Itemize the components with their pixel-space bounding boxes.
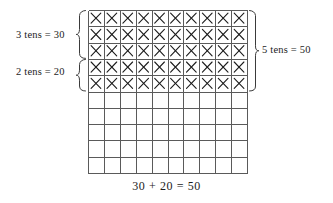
x-mark-icon [202,62,212,72]
x-mark-icon [107,46,117,56]
x-mark-icon [187,13,197,23]
x-mark-icon [202,29,212,39]
x-mark-icon [155,62,165,72]
x-mark-icon [91,13,101,23]
x-mark-icon [218,29,228,39]
brace-five-tens [250,11,259,92]
x-mark-icon [107,29,117,39]
brace-two-tens [76,59,85,91]
x-mark-icon [234,78,244,88]
x-mark-icon [123,62,133,72]
x-mark-icon [123,46,133,56]
x-mark-icon [202,46,212,56]
x-mark-icon [171,78,181,88]
x-marks-group [91,13,244,88]
x-mark-icon [187,78,197,88]
x-mark-icon [155,13,165,23]
x-mark-icon [234,62,244,72]
x-mark-icon [107,62,117,72]
x-mark-icon [123,78,133,88]
x-mark-icon [202,78,212,88]
x-mark-icon [139,62,149,72]
x-mark-icon [171,29,181,39]
x-mark-icon [107,13,117,23]
x-mark-icon [91,46,101,56]
x-mark-icon [234,46,244,56]
x-mark-icon [171,13,181,23]
x-mark-icon [218,46,228,56]
x-mark-icon [187,29,197,39]
label-three-tens: 3 tens = 30 [16,29,65,40]
x-mark-icon [155,46,165,56]
diagram-canvas: 3 tens = 30 2 tens = 20 5 tens = 50 30 +… [0,0,333,203]
x-mark-icon [123,13,133,23]
x-mark-icon [123,29,133,39]
x-mark-icon [91,29,101,39]
x-mark-icon [171,62,181,72]
x-mark-icon [218,78,228,88]
x-mark-icon [202,13,212,23]
x-mark-icon [139,13,149,23]
x-mark-icon [139,29,149,39]
x-mark-icon [218,62,228,72]
x-mark-icon [107,78,117,88]
x-mark-icon [91,62,101,72]
x-mark-icon [234,13,244,23]
brace-three-tens [76,11,85,59]
x-mark-icon [91,78,101,88]
x-mark-icon [171,46,181,56]
label-two-tens: 2 tens = 20 [16,66,65,77]
x-mark-icon [218,13,228,23]
x-mark-icon [139,78,149,88]
label-five-tens: 5 tens = 50 [262,44,311,55]
x-mark-icon [155,78,165,88]
equation-text: 30 + 20 = 50 [0,179,333,194]
x-mark-icon [234,29,244,39]
x-mark-icon [139,46,149,56]
x-mark-icon [187,62,197,72]
x-mark-icon [155,29,165,39]
x-mark-icon [187,46,197,56]
